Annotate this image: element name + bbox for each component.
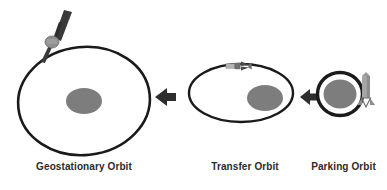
rocket-body-shade-icon (367, 76, 370, 98)
transfer-orbit-group (189, 64, 293, 122)
parking-orbit-group (318, 73, 363, 116)
launch-rocket (357, 72, 375, 107)
transfer-satellite-body-icon (235, 63, 241, 69)
parking-earth-body (324, 80, 357, 109)
arrow-parking-to-transfer (300, 89, 317, 105)
arrow-left-icon (300, 89, 317, 105)
geostationary-orbit-group (13, 40, 156, 161)
transfer-satellite-panel-left-icon (226, 64, 235, 68)
arrow-left-icon (155, 88, 176, 106)
rocket-fin-right-icon (370, 98, 375, 105)
transfer-earth-body (247, 85, 283, 111)
geostationary-earth-body (66, 88, 102, 114)
satellite-body-band-icon (47, 39, 57, 44)
orbit-transfer-diagram: Geostationary Orbit Transfer Orbit Parki… (0, 0, 387, 190)
rocket-fin-left-icon (357, 98, 362, 105)
rocket-nose-icon (362, 72, 370, 76)
geostationary-satellite (41, 10, 72, 63)
transfer-satellite-panel-right-lower-icon (241, 67, 249, 71)
arrow-transfer-to-geo (155, 88, 176, 106)
transfer-satellite (226, 61, 252, 70)
orbit-diagram-canvas (0, 0, 387, 190)
